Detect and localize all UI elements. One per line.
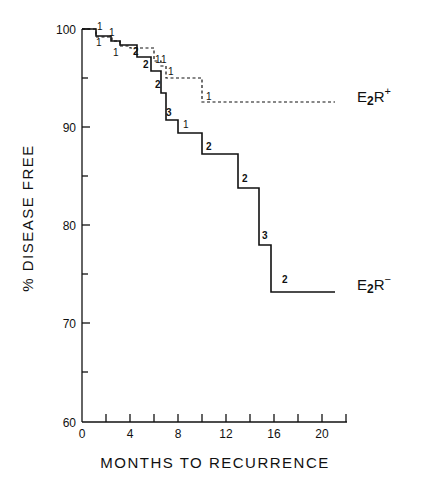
x-axis-title: MONTHS TO RECURRENCE (100, 454, 329, 471)
svg-text:2: 2 (143, 59, 149, 70)
xtick-20: 20 (315, 427, 329, 441)
ytick-80: 80 (63, 219, 77, 233)
svg-text:1: 1 (206, 91, 212, 102)
legend-e2r-positive: E2R+ (357, 85, 391, 108)
svg-text:2: 2 (155, 79, 161, 90)
svg-text:1: 1 (96, 37, 102, 48)
xtick-4: 4 (127, 427, 134, 441)
svg-text:2: 2 (282, 274, 288, 285)
svg-text:3: 3 (262, 230, 268, 241)
xtick-0: 0 (79, 427, 86, 441)
km-chart: 100 90 80 70 60 0 4 8 12 16 20 MONTHS TO… (0, 0, 421, 493)
ytick-60: 60 (63, 416, 77, 430)
svg-text:1: 1 (97, 21, 103, 32)
svg-text:2: 2 (242, 173, 248, 184)
ytick-70: 70 (63, 317, 77, 331)
svg-text:1: 1 (109, 27, 115, 38)
y-axis (82, 29, 90, 422)
svg-text:1: 1 (113, 47, 119, 58)
x-axis (82, 414, 347, 422)
svg-text:3: 3 (166, 107, 172, 118)
svg-text:E2R+: E2R+ (357, 85, 391, 108)
svg-text:2: 2 (133, 46, 139, 57)
svg-text:2: 2 (206, 141, 212, 152)
legend-e2r-negative: E2R− (357, 273, 391, 296)
xtick-8: 8 (175, 427, 182, 441)
svg-text:E2R−: E2R− (357, 273, 391, 296)
y-axis-title: % DISEASE FREE (19, 144, 36, 292)
xtick-12: 12 (219, 427, 233, 441)
ytick-90: 90 (63, 121, 77, 135)
svg-text:1: 1 (183, 119, 189, 130)
series-e2r-negative-line (82, 29, 335, 292)
svg-text:1: 1 (161, 54, 167, 65)
ytick-100: 100 (56, 23, 76, 37)
svg-text:1: 1 (168, 66, 174, 77)
xtick-16: 16 (267, 427, 281, 441)
